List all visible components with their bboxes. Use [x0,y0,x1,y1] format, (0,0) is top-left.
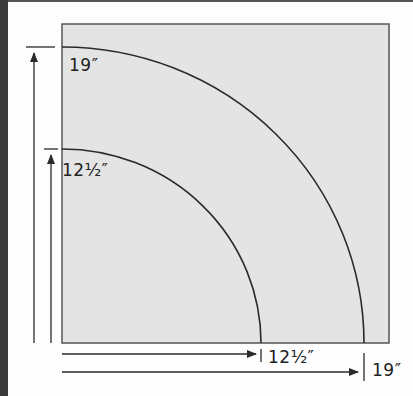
quarter-circle-diagram [0,0,413,396]
fabric-block [62,24,389,343]
outer-horizontal-label: 19″ [372,360,401,380]
inner-horizontal-label: 12½″ [268,347,314,367]
outer-vertical-label: 19″ [69,55,98,75]
inner-vertical-label: 12½″ [62,160,108,180]
